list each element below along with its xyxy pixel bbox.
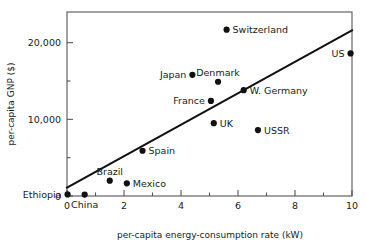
point-label-denmark: Denmark [196,67,240,78]
point-label-spain: Spain [149,145,176,156]
scatter-plot: 0246810010,00020,000 EthiopiaChinaBrazil… [0,0,366,244]
point-label-us: US [332,48,345,59]
y-tick-label: 20,000 [28,37,61,48]
plot-canvas: 0246810010,00020,000 EthiopiaChinaBrazil… [0,0,366,244]
point-label-china: China [71,199,98,210]
data-point-spain [139,148,145,154]
data-point-w-germany [241,87,247,93]
point-label-france: France [173,95,205,106]
point-label-brazil: Brazil [96,166,123,177]
data-point-ussr [255,127,261,133]
point-label-uk: UK [220,118,234,129]
data-point-switzerland [224,27,230,33]
data-point-france [208,98,214,104]
point-label-w-germany: W. Germany [250,85,308,96]
point-label-mexico: Mexico [133,178,166,189]
point-label-ethiopia: Ethiopia [23,189,62,200]
data-point-ethiopia [64,191,70,197]
data-point-brazil [107,178,113,184]
data-point-mexico [124,180,130,186]
y-axis-label: per-capita GNP ($) [6,63,16,146]
data-point-uk [211,120,217,126]
point-label-japan: Japan [159,69,187,80]
data-point-denmark [215,79,221,85]
y-tick-label: 10,000 [28,114,61,125]
data-point-china [82,192,88,198]
point-label-ussr: USSR [264,125,290,136]
x-tick-label: 2 [121,200,127,211]
x-tick-label: 6 [235,200,241,211]
x-axis-label: per-capita energy-consumption rate (kW) [117,230,303,240]
x-tick-label: 0 [64,200,70,211]
x-tick-label: 10 [346,200,358,211]
x-tick-label: 8 [292,200,298,211]
data-point-us [347,50,353,56]
point-label-switzerland: Switzerland [233,24,288,35]
data-point-japan [189,72,195,78]
x-tick-label: 4 [178,200,184,211]
